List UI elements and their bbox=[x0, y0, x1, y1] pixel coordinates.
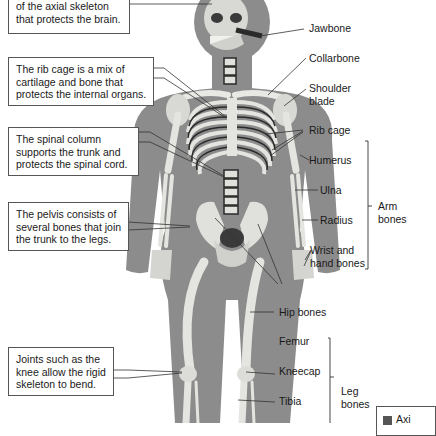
note-spinal-column: The spinal column supports the trunk and… bbox=[8, 127, 139, 176]
label-arm-bones: Arm bones bbox=[378, 200, 407, 225]
note-skull: of the axial skeleton that protects the … bbox=[8, 0, 130, 34]
label-jawbone: Jawbone bbox=[309, 22, 351, 35]
label-hip-bones: Hip bones bbox=[279, 306, 326, 319]
note-rib-cage: The rib cage is a mix of cartilage and b… bbox=[8, 57, 154, 106]
note-joints: Joints such as the knee allow the rigid … bbox=[8, 347, 114, 396]
legend-swatch-axial bbox=[383, 416, 392, 425]
label-rib-cage: Rib cage bbox=[309, 124, 350, 137]
note-pelvis: The pelvis consists of several bones tha… bbox=[8, 202, 129, 251]
label-humerus: Humerus bbox=[309, 154, 352, 167]
label-kneecap: Kneecap bbox=[279, 365, 320, 378]
shoulder-girdle bbox=[185, 93, 280, 97]
legend: Axi bbox=[376, 406, 436, 436]
label-wrist-hand-bones: Wrist and hand bones bbox=[310, 244, 365, 269]
label-radius: Radius bbox=[320, 214, 353, 227]
label-ulna: Ulna bbox=[320, 184, 342, 197]
label-leg-bones: Leg bones bbox=[341, 385, 370, 410]
label-tibia: Tibia bbox=[279, 395, 301, 408]
label-shoulder-blade: Shoulder blade bbox=[309, 82, 351, 107]
label-collarbone: Collarbone bbox=[309, 52, 360, 65]
label-femur: Femur bbox=[279, 335, 309, 348]
legend-label-axial: Axi bbox=[396, 413, 411, 425]
sternum bbox=[227, 98, 237, 156]
